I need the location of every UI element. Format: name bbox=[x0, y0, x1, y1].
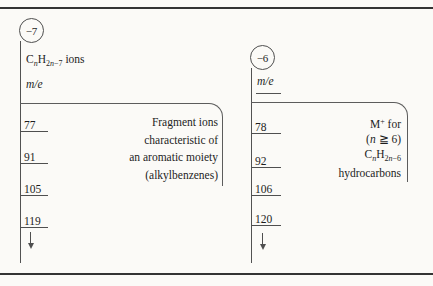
left-mass-scale-label: m/e bbox=[26, 78, 43, 90]
ion-series-diagram: −7 CnH2n−7 ions m/e 77 91 105 119 Fragme… bbox=[0, 0, 433, 286]
left-mass-value-1: 77 bbox=[24, 119, 36, 131]
right-note-line: M+ for bbox=[280, 115, 401, 132]
right-mass-value-4: 120 bbox=[255, 213, 272, 225]
right-mass-value-1: 78 bbox=[255, 121, 267, 133]
left-note-line: characteristic of bbox=[40, 132, 218, 150]
left-mass-value-3: 105 bbox=[24, 183, 41, 195]
right-mass-scale-label: m/e bbox=[257, 75, 274, 87]
right-mass-value-row: 78 bbox=[251, 115, 281, 134]
left-note-line: Fragment ions bbox=[40, 114, 218, 132]
down-arrow-icon bbox=[262, 233, 263, 247]
right-note: M+ for (n ≧ 6) CnH2n−6 hydrocarbons bbox=[280, 115, 401, 181]
right-mass-value-row: 92 bbox=[251, 149, 281, 168]
down-arrow-icon bbox=[30, 232, 31, 246]
series-badge-minus7-label: −7 bbox=[26, 25, 38, 37]
left-mass-value-row: 119 bbox=[20, 209, 48, 228]
left-series-formula: CnH2n−7 ions bbox=[26, 53, 85, 68]
left-note-line: (alkylbenzenes) bbox=[40, 167, 218, 185]
right-mass-scale-underline bbox=[256, 93, 281, 94]
right-note-line: hydrocarbons bbox=[280, 166, 401, 181]
series-badge-minus6: −6 bbox=[250, 45, 275, 70]
right-mass-value-row: 106 bbox=[251, 177, 281, 196]
right-note-line: CnH2n−6 bbox=[280, 147, 401, 167]
left-mass-value-4: 119 bbox=[24, 215, 41, 227]
left-mass-value-2: 91 bbox=[24, 151, 36, 163]
top-rule bbox=[0, 7, 433, 9]
series-badge-minus7: −7 bbox=[19, 18, 44, 43]
left-note: Fragment ions characteristic of an aroma… bbox=[40, 114, 218, 184]
right-mass-value-row: 120 bbox=[251, 207, 281, 226]
right-mass-value-3: 106 bbox=[255, 183, 272, 195]
left-note-line: an aromatic moiety bbox=[40, 149, 218, 167]
bottom-rule bbox=[0, 273, 433, 275]
series-badge-minus6-label: −6 bbox=[257, 52, 269, 64]
right-mass-value-2: 92 bbox=[255, 155, 267, 167]
right-note-line: (n ≧ 6) bbox=[280, 132, 401, 147]
